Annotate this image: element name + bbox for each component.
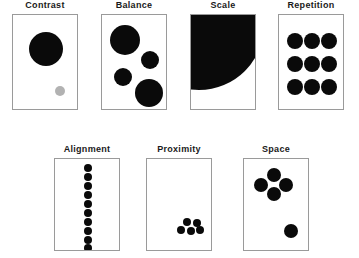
panel-proximity: Proximity	[146, 144, 212, 251]
panel-frame-proximity	[146, 158, 212, 251]
shape-alignment-8	[84, 227, 92, 235]
panel-frame-repetition	[278, 14, 344, 110]
shape-repetition-7	[287, 79, 303, 95]
shape-alignment-9	[84, 236, 92, 244]
panel-title-proximity: Proximity	[146, 144, 212, 155]
panel-title-repetition: Repetition	[278, 0, 344, 11]
panel-frame-space	[243, 158, 309, 251]
design-principles-diagram: ContrastBalanceScaleRepetitionAlignmentP…	[0, 0, 359, 258]
shape-space-5	[284, 224, 298, 238]
shape-space-2	[254, 178, 268, 192]
panel-title-contrast: Contrast	[12, 0, 78, 11]
shape-contrast-1	[29, 32, 63, 66]
panel-balance: Balance	[101, 0, 167, 110]
panel-frame-balance	[101, 14, 167, 110]
shape-repetition-4	[287, 56, 303, 72]
panel-frame-scale	[190, 14, 256, 110]
shape-space-3	[279, 178, 293, 192]
shape-repetition-2	[304, 33, 320, 49]
shape-proximity-1	[183, 218, 191, 226]
shape-repetition-6	[321, 56, 337, 72]
panel-frame-alignment	[54, 158, 120, 251]
shape-alignment-10	[84, 244, 92, 251]
panel-title-space: Space	[243, 144, 309, 155]
shape-balance-1	[110, 25, 140, 55]
shape-balance-4	[135, 79, 163, 107]
shape-space-4	[267, 187, 281, 201]
shape-proximity-4	[187, 227, 195, 235]
shape-alignment-2	[84, 173, 92, 181]
shape-space-1	[267, 168, 281, 182]
shape-proximity-3	[177, 226, 185, 234]
shape-contrast-2	[55, 86, 65, 96]
shape-repetition-1	[287, 33, 303, 49]
shape-alignment-3	[84, 182, 92, 190]
panel-space: Space	[243, 144, 309, 251]
panel-alignment: Alignment	[54, 144, 120, 251]
shape-alignment-5	[84, 200, 92, 208]
panel-contrast: Contrast	[12, 0, 78, 110]
panel-scale: Scale	[190, 0, 256, 110]
shape-repetition-5	[304, 56, 320, 72]
shape-repetition-3	[321, 33, 337, 49]
shape-alignment-1	[84, 164, 92, 172]
panel-title-balance: Balance	[101, 0, 167, 11]
shape-scale-1	[190, 14, 256, 90]
shape-repetition-9	[321, 79, 337, 95]
shape-repetition-8	[304, 79, 320, 95]
panel-title-alignment: Alignment	[54, 144, 120, 155]
shape-alignment-6	[84, 209, 92, 217]
panel-title-scale: Scale	[190, 0, 256, 11]
panel-repetition: Repetition	[278, 0, 344, 110]
shape-balance-2	[141, 51, 159, 69]
panel-frame-contrast	[12, 14, 78, 110]
shape-alignment-4	[84, 191, 92, 199]
shape-proximity-5	[196, 226, 204, 234]
shape-balance-3	[114, 68, 132, 86]
shape-alignment-7	[84, 218, 92, 226]
